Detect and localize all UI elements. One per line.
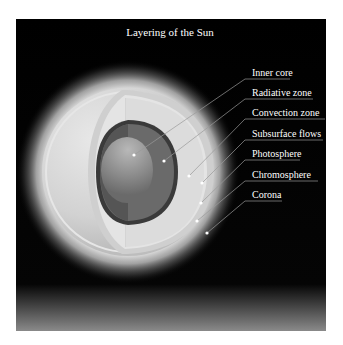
inner-core — [101, 137, 153, 203]
label-radiative-zone: Radiative zone — [252, 87, 312, 98]
marker-dot-corona — [205, 231, 208, 234]
marker-dot-photosphere — [199, 201, 202, 204]
marker-dot-subsurface-flows — [200, 181, 203, 184]
label-subsurface-flows: Subsurface flows — [252, 128, 321, 139]
marker-dot-inner-core — [132, 153, 135, 156]
diagram-title: Layering of the Sun — [126, 26, 214, 38]
label-convection-zone: Convection zone — [252, 107, 320, 118]
label-corona: Corona — [252, 189, 282, 200]
label-inner-core: Inner core — [252, 67, 293, 78]
marker-dot-chromosphere — [195, 219, 198, 222]
label-chromosphere: Chromosphere — [252, 169, 311, 180]
marker-dot-radiative-zone — [162, 159, 165, 162]
label-photosphere: Photosphere — [252, 148, 302, 159]
marker-dot-convection-zone — [187, 174, 190, 177]
sun-layers-diagram: Layering of the Sun Inner coreRadiative … — [0, 0, 343, 345]
